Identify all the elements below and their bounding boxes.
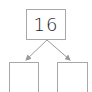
arrow-right (47, 40, 70, 60)
whole-box: 16 (26, 9, 66, 40)
part-box-left[interactable] (9, 62, 39, 92)
arrow-left (26, 40, 47, 60)
part-box-right[interactable] (57, 62, 88, 92)
whole-value: 16 (34, 14, 59, 35)
